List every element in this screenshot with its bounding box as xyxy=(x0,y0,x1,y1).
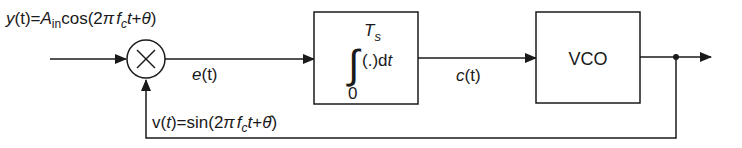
error-signal-label: e(t) xyxy=(192,65,218,84)
integrand: (.)dt xyxy=(362,51,394,70)
vco-label: VCO xyxy=(568,49,607,69)
control-signal-label: c(t) xyxy=(456,66,481,85)
vco-block: VCO xyxy=(536,12,640,103)
pll-diagram: y(t)=Aincos(2πfct+θ) e(t) ∫ Ts (.)dt 0 c… xyxy=(0,0,742,148)
multiplier xyxy=(127,40,165,78)
integrator-block: ∫ Ts (.)dt 0 xyxy=(314,12,418,104)
integrator-lower-limit: 0 xyxy=(348,84,357,103)
input-signal-label: y(t)=Aincos(2πfct+θ) xyxy=(5,9,156,31)
feedback-signal-label: v(t)=sin(2πfct+θ̂) xyxy=(152,113,277,135)
